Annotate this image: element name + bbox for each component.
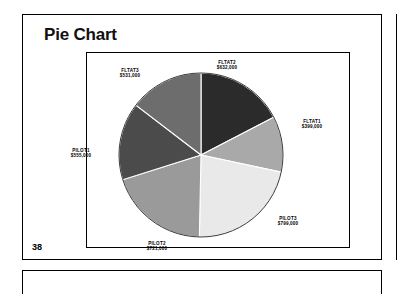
pie-label-fltat1-value: $399,000 (286, 124, 338, 129)
pie-label-pilot2: PILOT2 $721,000 (131, 241, 183, 252)
page-title: Pie Chart (44, 26, 117, 43)
pie-label-fltat3: FLTAT3 $531,000 (104, 68, 156, 79)
pie-label-fltat2-value: $632,000 (198, 65, 256, 70)
pie-label-fltat2: FLTAT2 $632,000 (198, 60, 256, 71)
next-slide-panel (22, 270, 382, 294)
pie-label-fltat3-value: $531,000 (104, 73, 156, 78)
pie-label-pilot1-value: $555,000 (55, 153, 107, 158)
pie-label-pilot2-value: $721,000 (131, 246, 183, 251)
page-margin-rule (396, 14, 397, 260)
pie-chart (118, 72, 284, 238)
pie-label-pilot3: PILOT3 $799,000 (262, 216, 314, 227)
pie-chart-svg (118, 72, 284, 238)
page-number: 38 (32, 243, 42, 252)
pie-label-fltat1: FLTAT1 $399,000 (286, 119, 338, 130)
slide-page: Pie Chart FLTAT2 $632,000 FLTAT1 $399,00… (0, 0, 404, 294)
pie-label-pilot1: PILOT1 $555,000 (55, 148, 107, 159)
pie-label-pilot3-value: $799,000 (262, 221, 314, 226)
